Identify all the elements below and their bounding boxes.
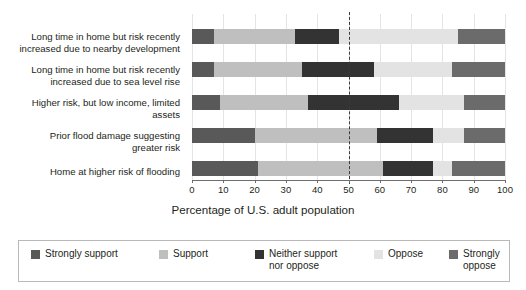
plot-area bbox=[192, 14, 505, 180]
gridline-100 bbox=[505, 14, 506, 180]
x-tick-label: 100 bbox=[493, 184, 517, 195]
bar-segment bbox=[214, 29, 295, 44]
x-tick-label: 70 bbox=[399, 184, 423, 195]
legend-item[interactable]: Support bbox=[159, 248, 208, 260]
x-tick bbox=[380, 180, 381, 183]
stacked-bar-chart: Long time in home but risk recently incr… bbox=[0, 0, 526, 290]
y-axis-label: Prior flood damage suggesting greater ri… bbox=[0, 130, 180, 153]
legend-item[interactable]: Strongly support bbox=[31, 248, 118, 260]
legend: Strongly supportSupportNeither support n… bbox=[18, 240, 510, 282]
y-axis-label: Home at higher risk of flooding bbox=[0, 166, 180, 178]
bar-segment bbox=[192, 29, 214, 44]
reference-line-50 bbox=[349, 12, 350, 184]
x-tick-label: 0 bbox=[180, 184, 204, 195]
bar-segment bbox=[192, 62, 214, 77]
bar-segment bbox=[255, 128, 377, 143]
x-tick-label: 10 bbox=[211, 184, 235, 195]
legend-swatch-icon bbox=[255, 250, 264, 259]
bar-segment bbox=[464, 95, 505, 110]
legend-item[interactable]: Neither support nor oppose bbox=[255, 248, 337, 271]
legend-swatch-icon bbox=[31, 250, 40, 259]
legend-swatch-icon bbox=[374, 250, 383, 259]
legend-label: Support bbox=[173, 248, 208, 260]
legend-label: Strongly oppose bbox=[463, 248, 509, 271]
legend-label: Neither support nor oppose bbox=[269, 248, 337, 271]
bar-segment bbox=[302, 62, 374, 77]
x-tick bbox=[411, 180, 412, 183]
x-axis-title: Percentage of U.S. adult population bbox=[0, 203, 526, 216]
x-tick-label: 40 bbox=[305, 184, 329, 195]
x-tick bbox=[474, 180, 475, 183]
bar-segment bbox=[192, 128, 255, 143]
y-axis-labels: Long time in home but risk recently incr… bbox=[0, 14, 186, 180]
legend-item[interactable]: Strongly oppose bbox=[449, 248, 509, 271]
x-tick-label: 20 bbox=[243, 184, 267, 195]
bar-segment bbox=[339, 29, 458, 44]
x-tick bbox=[192, 180, 193, 183]
legend-swatch-icon bbox=[449, 250, 458, 259]
bar-segment bbox=[308, 95, 399, 110]
x-tick-label: 80 bbox=[430, 184, 454, 195]
legend-item[interactable]: Oppose bbox=[374, 248, 423, 260]
bar-segment bbox=[377, 128, 433, 143]
y-axis-label: Higher risk, but low income, limited ass… bbox=[0, 97, 180, 120]
x-tick bbox=[223, 180, 224, 183]
x-tick bbox=[317, 180, 318, 183]
bar-segment bbox=[192, 95, 220, 110]
x-tick bbox=[255, 180, 256, 183]
bar-segment bbox=[433, 161, 452, 176]
legend-label: Oppose bbox=[388, 248, 423, 260]
x-tick-label: 30 bbox=[274, 184, 298, 195]
bar-segment bbox=[458, 29, 505, 44]
x-tick bbox=[505, 180, 506, 183]
x-tick bbox=[286, 180, 287, 183]
y-axis-label: Long time in home but risk recently incr… bbox=[0, 31, 180, 54]
bar-segment bbox=[258, 161, 383, 176]
bar-segment bbox=[220, 95, 308, 110]
bar-segment bbox=[374, 62, 452, 77]
x-tick-label: 90 bbox=[462, 184, 486, 195]
x-tick bbox=[349, 180, 350, 183]
legend-swatch-icon bbox=[159, 250, 168, 259]
x-tick bbox=[442, 180, 443, 183]
y-axis-label: Long time in home but risk recently incr… bbox=[0, 64, 180, 87]
x-tick-label: 50 bbox=[337, 184, 361, 195]
bar-segment bbox=[383, 161, 433, 176]
bar-segment bbox=[399, 95, 465, 110]
x-tick-label: 60 bbox=[368, 184, 392, 195]
bar-segment bbox=[433, 128, 464, 143]
bar-segment bbox=[464, 128, 505, 143]
bar-segment bbox=[452, 62, 505, 77]
bar-segment bbox=[214, 62, 302, 77]
bar-segment bbox=[295, 29, 339, 44]
legend-label: Strongly support bbox=[45, 248, 118, 260]
bar-segment bbox=[452, 161, 505, 176]
bar-segment bbox=[192, 161, 258, 176]
